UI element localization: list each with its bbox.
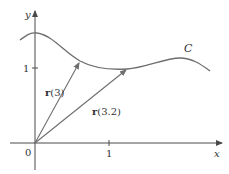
vector-r3 — [35, 63, 79, 143]
vector-r32-label-arg: (3.2) — [97, 106, 121, 117]
curve-c — [20, 33, 210, 71]
vector-r32-label: r(3.2) — [92, 106, 121, 117]
y-tick-label: 1 — [23, 63, 29, 74]
vector-curve-diagram: y x 0 1 1 C r(3) r(3.2) — [0, 0, 229, 174]
curve-label: C — [184, 42, 193, 55]
y-axis-label: y — [24, 9, 31, 20]
x-tick-label: 1 — [106, 148, 112, 159]
origin-label: 0 — [25, 147, 31, 158]
vector-r3-label-arg: (3) — [50, 87, 64, 98]
x-axis-label: x — [214, 148, 220, 159]
vector-r3-label: r(3) — [45, 87, 65, 98]
